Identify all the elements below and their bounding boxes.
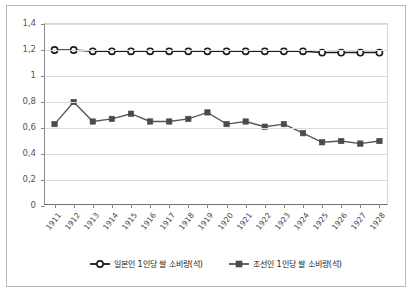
y-axis-tick-label: 0 [6, 200, 36, 210]
data-point-marker [128, 111, 133, 116]
data-point-marker [167, 119, 172, 124]
y-axis-tick-label: 1,2 [6, 44, 36, 54]
y-axis-tick-label: 1,4 [6, 18, 36, 28]
data-point-marker [147, 119, 152, 124]
data-point-marker [109, 116, 114, 121]
chart-legend: 일본인 1인당 쌀 소비량(석)조선인 1인당 쌀 소비량(석) [44, 258, 388, 269]
y-gridline [45, 128, 387, 129]
x-tick-mark [74, 204, 75, 208]
data-point-marker [339, 138, 344, 143]
x-tick-mark [112, 204, 113, 208]
legend-entry-korea: 조선인 1인당 쌀 소비량(석) [229, 258, 342, 269]
y-axis-tick-label: 0,2 [6, 174, 36, 184]
y-axis-tick-label: 0,4 [6, 148, 36, 158]
y-tick-mark [41, 128, 45, 129]
y-tick-mark [41, 50, 45, 51]
data-point-marker [186, 116, 191, 121]
series-line-korea [55, 102, 380, 144]
x-tick-mark [284, 204, 285, 208]
y-axis-tick-label: 1 [6, 70, 36, 80]
x-tick-mark [379, 204, 380, 208]
x-tick-mark [131, 204, 132, 208]
data-point-marker [224, 121, 229, 126]
y-tick-mark [41, 102, 45, 103]
legend-label: 일본인 1인당 쌀 소비량(석) [114, 258, 203, 269]
legend-label: 조선인 1인당 쌀 소비량(석) [253, 258, 342, 269]
filled-square-marker [229, 259, 249, 269]
x-tick-mark [246, 204, 247, 208]
y-gridline [45, 102, 387, 103]
plot-area [44, 23, 388, 205]
data-point-marker [90, 119, 95, 124]
data-point-marker [243, 119, 248, 124]
x-tick-mark [150, 204, 151, 208]
chart-figure: 00,20,40,60,811,21,419111912191319141915… [0, 0, 414, 294]
y-gridline [45, 76, 387, 77]
x-tick-mark [55, 204, 56, 208]
y-gridline [45, 24, 387, 25]
x-tick-mark [322, 204, 323, 208]
y-tick-mark [41, 24, 45, 25]
y-gridline [45, 154, 387, 155]
y-gridline [45, 50, 387, 51]
x-tick-mark [303, 204, 304, 208]
data-point-marker [358, 141, 363, 146]
data-point-marker [300, 131, 305, 136]
data-point-marker [319, 140, 324, 145]
x-tick-mark [188, 204, 189, 208]
x-tick-mark [265, 204, 266, 208]
x-tick-mark [360, 204, 361, 208]
y-axis-tick-label: 0,8 [6, 96, 36, 106]
data-point-marker [205, 110, 210, 115]
data-point-marker [52, 121, 57, 126]
legend-entry-japan: 일본인 1인당 쌀 소비량(석) [90, 258, 203, 269]
open-circle-marker [90, 259, 110, 269]
y-gridline [45, 180, 387, 181]
y-axis-tick-label: 0,6 [6, 122, 36, 132]
y-tick-mark [41, 180, 45, 181]
y-tick-mark [41, 206, 45, 207]
data-point-marker [281, 121, 286, 126]
x-tick-mark [341, 204, 342, 208]
series-canvas [45, 24, 389, 206]
y-tick-mark [41, 154, 45, 155]
data-point-marker [377, 138, 382, 143]
x-tick-mark [207, 204, 208, 208]
x-tick-mark [93, 204, 94, 208]
x-tick-mark [169, 204, 170, 208]
x-tick-mark [227, 204, 228, 208]
y-tick-mark [41, 76, 45, 77]
